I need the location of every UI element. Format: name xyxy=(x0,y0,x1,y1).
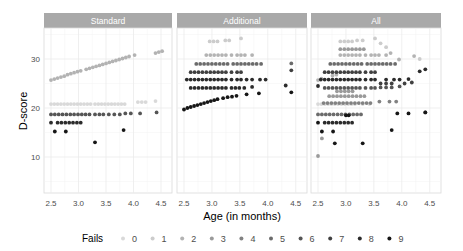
data-point xyxy=(155,111,159,115)
data-point xyxy=(65,113,69,117)
data-point xyxy=(66,102,70,106)
data-point xyxy=(72,113,76,117)
data-point xyxy=(335,89,339,93)
data-point xyxy=(157,50,161,54)
data-point xyxy=(212,98,216,102)
data-point xyxy=(331,94,335,98)
data-point xyxy=(106,102,110,106)
data-point xyxy=(201,70,205,74)
data-point xyxy=(351,89,355,93)
data-point xyxy=(360,62,364,66)
data-point xyxy=(93,140,97,144)
data-point xyxy=(342,53,346,57)
data-point xyxy=(392,78,396,82)
data-point xyxy=(363,94,367,98)
data-point xyxy=(335,78,339,82)
data-point xyxy=(346,40,350,44)
data-point xyxy=(333,141,337,145)
x-tick-label: 2.5 xyxy=(312,199,324,208)
data-point xyxy=(364,86,368,90)
data-point xyxy=(320,130,324,134)
data-point xyxy=(355,113,359,117)
data-point xyxy=(189,78,193,82)
data-point xyxy=(331,121,335,125)
data-point xyxy=(136,100,140,104)
data-point xyxy=(335,94,339,98)
data-point xyxy=(216,97,220,101)
data-point xyxy=(123,112,127,116)
legend-item-1: 1 xyxy=(151,234,167,244)
data-point xyxy=(373,53,377,57)
data-point xyxy=(101,63,105,67)
data-point xyxy=(339,94,343,98)
data-point xyxy=(69,72,73,76)
data-point xyxy=(354,47,358,51)
data-point xyxy=(129,112,133,116)
data-point xyxy=(64,130,68,134)
data-point xyxy=(138,112,142,116)
legend-key-icon xyxy=(121,237,125,241)
data-point xyxy=(235,94,239,98)
data-point xyxy=(381,62,385,66)
data-point xyxy=(208,70,212,74)
data-point xyxy=(237,86,241,90)
data-point xyxy=(100,102,104,106)
data-point xyxy=(221,96,225,100)
data-point xyxy=(369,62,373,66)
data-point xyxy=(384,53,388,57)
data-point xyxy=(346,86,350,90)
data-point xyxy=(154,99,158,103)
data-point xyxy=(216,53,220,57)
data-point xyxy=(348,62,352,66)
data-point xyxy=(350,86,354,90)
legend-key-icon xyxy=(210,237,214,241)
data-point xyxy=(358,86,362,90)
data-point xyxy=(346,47,350,51)
data-point xyxy=(224,70,228,74)
data-point xyxy=(189,70,193,74)
data-point xyxy=(373,70,377,74)
panels: Standard2.53.03.54.04.5Additional2.53.03… xyxy=(44,13,441,208)
x-tick-label: 4.5 xyxy=(155,199,167,208)
data-point xyxy=(398,85,402,89)
legend-key-icon xyxy=(387,237,391,241)
data-point xyxy=(335,70,339,74)
data-point xyxy=(316,84,320,88)
data-point xyxy=(337,101,341,105)
data-point xyxy=(216,78,220,82)
data-point xyxy=(320,137,324,141)
data-point xyxy=(373,37,377,41)
data-point xyxy=(364,53,368,57)
faceted-scatter-chart: Standard2.53.03.54.04.5Additional2.53.03… xyxy=(0,0,463,251)
data-point xyxy=(72,102,76,106)
data-point xyxy=(235,53,239,57)
data-point xyxy=(49,121,53,125)
data-point xyxy=(359,113,363,117)
data-point xyxy=(394,100,398,104)
data-point xyxy=(113,102,117,106)
data-point xyxy=(369,86,373,90)
data-point xyxy=(346,78,350,82)
legend-item-8: 8 xyxy=(358,234,374,244)
data-point xyxy=(323,121,327,125)
data-point xyxy=(331,86,335,90)
data-point xyxy=(214,62,218,66)
data-point xyxy=(377,53,381,57)
data-point xyxy=(216,40,220,44)
data-point xyxy=(224,78,228,82)
data-point xyxy=(245,92,249,96)
data-point xyxy=(347,89,351,93)
data-point xyxy=(259,62,263,66)
data-point xyxy=(357,101,361,105)
data-point xyxy=(79,69,83,73)
data-point xyxy=(389,62,393,66)
legend-label: 7 xyxy=(339,234,344,244)
data-point xyxy=(212,53,216,57)
panel-standard: Standard2.53.03.54.04.5 xyxy=(44,13,172,208)
data-point xyxy=(230,86,234,90)
legend-label: 5 xyxy=(280,234,285,244)
data-point xyxy=(255,62,259,66)
legend-label: 8 xyxy=(369,234,374,244)
data-point xyxy=(103,102,107,106)
data-point xyxy=(390,86,394,90)
